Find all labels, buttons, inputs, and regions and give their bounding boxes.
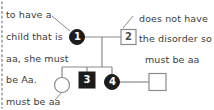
note-left-line-2: child that is (6, 31, 63, 42)
individual-spouse-symbol (149, 74, 166, 91)
note-left-line-1: to have a (6, 9, 52, 20)
leader-line-note-left (52, 16, 70, 31)
note-bottom-line-1: must be aa (6, 96, 61, 107)
note-right-line-2: the disorder so (139, 33, 212, 44)
leader-line-note-right (123, 16, 133, 28)
individual-2-label: 2 (121, 32, 136, 42)
individual-3-label: 3 (79, 75, 95, 85)
individual-1-label: 1 (70, 32, 85, 42)
pedigree-diagram: 1 2 3 4 to have a child that is aa, she … (0, 0, 214, 110)
individual-4-label: 4 (105, 77, 120, 87)
note-right-line-3: must be aa (145, 54, 200, 65)
note-left-line-4: be Aa. (6, 74, 37, 85)
individual-daughter-symbol (55, 78, 70, 93)
note-right-line-1: does not have (139, 13, 208, 24)
note-left-line-3: aa, she must (6, 53, 69, 64)
